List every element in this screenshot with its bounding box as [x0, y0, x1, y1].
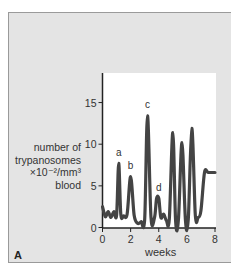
x-tick-label: 4: [156, 233, 162, 245]
x-tick-label: 2: [128, 233, 134, 245]
peak-labels: abcd: [116, 99, 162, 192]
y-tick-label: 0: [91, 222, 97, 234]
y-axis-label: number of trypanosomes ×10⁻²/mm³ blood: [0, 141, 81, 191]
y-label-line: number of: [0, 141, 81, 154]
y-tick-label: 15: [85, 97, 97, 109]
peak-label-d: d: [156, 182, 162, 193]
y-tick-label: 5: [91, 180, 97, 192]
y-tick-label: 10: [85, 138, 97, 150]
x-tick-label: 6: [184, 233, 190, 245]
x-tick-label: 8: [212, 233, 218, 245]
trypanosome-curve: [103, 116, 216, 231]
x-ticks: 02468: [100, 228, 219, 245]
peak-label-b: b: [128, 160, 134, 171]
x-axis-label: weeks: [145, 246, 176, 258]
peak-label-a: a: [116, 147, 122, 158]
chart-svg: 051015 02468 abcd: [0, 0, 231, 270]
x-tick-label: 0: [100, 233, 106, 245]
y-label-line: trypanosomes: [0, 154, 81, 167]
y-label-line: blood: [0, 179, 81, 192]
peak-label-c: c: [145, 99, 150, 110]
panel-letter: A: [14, 249, 22, 261]
y-label-line: ×10⁻²/mm³: [0, 166, 81, 179]
y-ticks: 051015: [85, 97, 103, 234]
